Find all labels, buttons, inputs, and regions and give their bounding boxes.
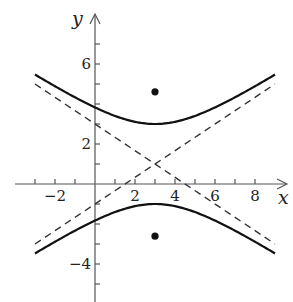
x-tick-label: −2 <box>44 187 66 205</box>
focus-point <box>151 88 158 95</box>
axes <box>15 14 287 302</box>
upper-branch-curve <box>35 75 275 124</box>
x-tick-label: 6 <box>210 187 220 205</box>
x-tick-label: 4 <box>170 187 180 205</box>
y-tick-label: 2 <box>81 135 91 153</box>
y-ticks <box>95 44 100 284</box>
plot-area <box>35 75 275 254</box>
x-tick-label: 8 <box>250 187 260 205</box>
y-tick-label: 6 <box>81 55 91 73</box>
y-tick-label: −4 <box>69 255 91 273</box>
tick-labels: −2246862−4 <box>44 55 260 273</box>
focus-point <box>151 233 158 240</box>
y-axis-label: y <box>71 7 83 29</box>
lower-branch-curve <box>35 204 275 253</box>
x-axis-label: x <box>278 186 289 208</box>
x-ticks <box>35 179 255 184</box>
x-tick-label: 2 <box>130 187 140 205</box>
hyperbola-plot: −2246862−4 x y <box>0 0 293 302</box>
